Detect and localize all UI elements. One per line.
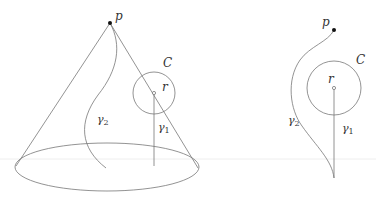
- diagram-canvas: p C r γ2 γ1 p C r γ2 γ1: [0, 0, 376, 198]
- right-figure: [291, 30, 361, 178]
- gamma1-subscript: 1: [349, 127, 354, 136]
- gamma2-path-left: [85, 23, 117, 168]
- label-gamma2-right: γ2: [288, 114, 300, 128]
- gamma2-subscript: 2: [295, 119, 300, 128]
- label-gamma1-right: γ1: [342, 122, 354, 136]
- label-gamma1-left: γ1: [158, 121, 170, 135]
- point-p-left: [108, 21, 112, 25]
- label-C-left: C: [163, 56, 172, 70]
- label-p-left: p: [115, 9, 123, 23]
- label-r-left: r: [162, 80, 169, 94]
- cone-base-ellipse: [15, 143, 199, 191]
- left-figure-cone: [15, 23, 199, 191]
- cone-left-edge: [16, 23, 110, 166]
- label-gamma2-left: γ2: [97, 113, 109, 127]
- label-C-right: C: [356, 53, 365, 67]
- point-r-left: [152, 91, 155, 94]
- label-p-right: p: [322, 15, 330, 29]
- gamma1-subscript: 1: [165, 126, 170, 135]
- gamma2-subscript: 2: [104, 118, 109, 127]
- point-p-right: [332, 28, 336, 32]
- label-r-right: r: [328, 72, 335, 86]
- point-r-right: [332, 86, 335, 89]
